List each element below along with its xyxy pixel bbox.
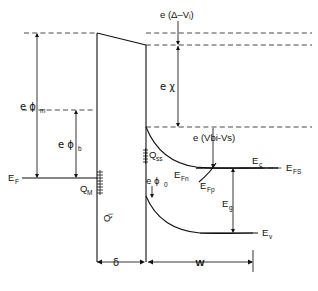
- label-quasi-fermi-n: E Fn: [174, 169, 189, 182]
- svg-text:Fn: Fn: [181, 175, 189, 182]
- label-e-phi-0: e ϕ 0: [146, 176, 168, 188]
- label-e-chi: e χ: [160, 81, 175, 92]
- label-vbi-text: e (Vbi-Vs): [193, 132, 235, 143]
- label-eg-sub: g: [229, 204, 233, 212]
- arrow-bandgap: [231, 168, 235, 233]
- label-e-phi-b-sub: b: [78, 145, 82, 152]
- label-e-phi-0-sub: 0: [164, 181, 168, 188]
- svg-text:e ϕ: e ϕ: [146, 176, 160, 186]
- svg-text:E: E: [200, 180, 206, 191]
- svg-text:v: v: [269, 233, 273, 240]
- label-efs-sub: FS: [293, 168, 302, 175]
- label-valence-band: E v: [262, 227, 273, 240]
- arrow-e-phi-0: [150, 186, 154, 198]
- band-diagram-svg: e (Δ–Vᵢ) e χ e ϕ m e ϕ b E F Q M Q I Q s…: [0, 0, 318, 291]
- label-e-phi-m: e ϕ m: [20, 101, 45, 114]
- svg-text:b: b: [78, 145, 82, 152]
- label-efs-text: E: [286, 162, 292, 173]
- metal-charge-hatch: [97, 170, 103, 195]
- svg-text:e (Vbi-Vs): e (Vbi-Vs): [193, 132, 235, 143]
- label-qss-sub: ss: [156, 155, 163, 162]
- label-metal-charge: Q M: [80, 183, 92, 196]
- arrow-e-phi-b: [74, 110, 78, 178]
- svg-text:ss: ss: [156, 155, 163, 162]
- valence-band-curve: [146, 196, 253, 233]
- svg-text:Fp: Fp: [207, 186, 215, 194]
- svg-text:E: E: [286, 162, 292, 173]
- label-e-phi-0-text: e ϕ: [146, 176, 160, 186]
- svg-text:e ϕ: e ϕ: [20, 101, 36, 112]
- label-insulator-thickness: δ: [113, 257, 119, 268]
- label-ec-text: E: [252, 155, 258, 166]
- label-depletion-width: W: [196, 257, 205, 268]
- surface-states-charge-mark: [143, 148, 148, 164]
- svg-text:FS: FS: [293, 168, 302, 175]
- svg-text:I: I: [107, 213, 114, 215]
- label-qi-sub: I: [107, 213, 114, 215]
- label-efn-sub: Fn: [181, 175, 189, 182]
- arrow-e-chi: [176, 46, 180, 127]
- insulator-conduction-edge-sloped: [97, 33, 146, 45]
- svg-text:e (Δ–Vᵢ): e (Δ–Vᵢ): [160, 9, 194, 20]
- label-e-vbi-minus-vs: e (Vbi-Vs): [193, 132, 235, 143]
- label-conduction-band: E c: [252, 155, 263, 168]
- label-bandgap: E g: [222, 198, 233, 212]
- label-ef-text: E: [8, 172, 14, 183]
- label-ef-sub: F: [15, 178, 19, 185]
- label-ec-sub: c: [259, 161, 263, 168]
- label-e-phi-b-text: e ϕ: [58, 139, 74, 150]
- svg-text:E: E: [262, 227, 268, 238]
- svg-text:E: E: [174, 169, 180, 180]
- svg-text:E: E: [222, 198, 228, 209]
- label-efn-text: E: [174, 169, 180, 180]
- label-e-phi-m-sub: m: [40, 107, 45, 114]
- svg-text:m: m: [40, 107, 45, 114]
- svg-text:M: M: [87, 189, 92, 196]
- label-e-delta-minus-vi: e (Δ–Vᵢ): [160, 9, 194, 20]
- label-efp-sub: Fp: [207, 186, 215, 194]
- svg-text:E: E: [8, 172, 14, 183]
- svg-text:F: F: [15, 178, 19, 185]
- svg-text:e ϕ: e ϕ: [58, 139, 74, 150]
- svg-text:g: g: [229, 204, 233, 212]
- label-eg-text: E: [222, 198, 228, 209]
- label-efp-text: E: [200, 180, 206, 191]
- label-quasi-fermi-p: E Fp: [200, 180, 215, 194]
- label-e-delta-text: e (Δ–Vᵢ): [160, 9, 194, 20]
- label-qm-sub: M: [87, 189, 92, 196]
- label-insulator-charge: Q I: [101, 213, 114, 222]
- svg-text:c: c: [259, 161, 263, 168]
- label-semiconductor-fermi: E FS: [286, 162, 302, 175]
- svg-text:E: E: [252, 155, 258, 166]
- dimension-insulator-thickness: [97, 260, 145, 265]
- label-metal-fermi: E F: [8, 172, 19, 185]
- svg-text:0: 0: [164, 181, 168, 188]
- label-ev-sub: v: [269, 233, 273, 240]
- band-diagram-figure: e (Δ–Vᵢ) e χ e ϕ m e ϕ b E F Q M Q I Q s…: [0, 0, 318, 291]
- label-e-phi-b: e ϕ b: [58, 139, 82, 152]
- label-e-phi-m-text: e ϕ: [20, 101, 36, 112]
- label-ev-text: E: [262, 227, 268, 238]
